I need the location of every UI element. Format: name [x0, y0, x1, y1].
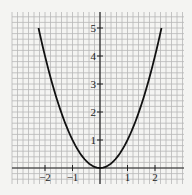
x-tick-label: −2 — [39, 171, 51, 183]
axes — [12, 12, 184, 184]
parabola-chart: −2−112 12345 — [0, 0, 192, 195]
y-tick-label: 4 — [91, 50, 97, 62]
x-tick-label: −1 — [67, 171, 79, 183]
y-tick-labels: 12345 — [91, 22, 97, 146]
grid-lines — [12, 12, 184, 184]
x-tick-label: 2 — [152, 171, 158, 183]
y-tick-label: 1 — [91, 134, 97, 146]
y-tick-label: 5 — [91, 22, 97, 34]
y-tick-label: 3 — [91, 78, 97, 90]
x-tick-label: 1 — [125, 171, 131, 183]
y-tick-label: 2 — [91, 106, 97, 118]
x-tick-labels: −2−112 — [39, 171, 158, 183]
